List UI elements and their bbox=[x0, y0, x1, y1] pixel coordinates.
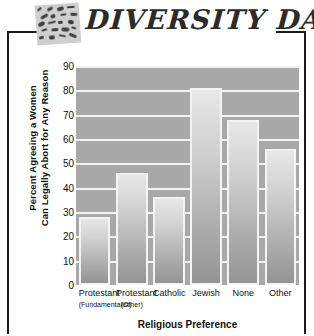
x-axis-tick-sublabel: (Fundamentalist) bbox=[79, 299, 111, 310]
y-axis-title-line2: Can Legally Abort for Any Reason bbox=[39, 70, 50, 227]
y-axis-title: Percent Agreeing a Women Can Legally Abo… bbox=[27, 32, 51, 264]
y-axis-tick: 90 bbox=[63, 61, 74, 72]
x-axis-tick: Other bbox=[265, 288, 297, 318]
y-axis-tick-labels: 9080706050403020100 bbox=[52, 52, 74, 285]
x-axis-tick-label: Protestant bbox=[116, 288, 148, 299]
y-axis-tick: 0 bbox=[68, 280, 74, 291]
bar-slot bbox=[190, 66, 222, 285]
y-axis-tick: 60 bbox=[63, 134, 74, 145]
x-axis-tick: Protestant(Fundamentalist) bbox=[79, 288, 111, 318]
bar-slot bbox=[227, 66, 259, 285]
bar-slot bbox=[116, 66, 148, 285]
bar[interactable] bbox=[227, 120, 259, 285]
bar-slot bbox=[79, 66, 111, 285]
bar-slot bbox=[153, 66, 185, 285]
x-axis-tick: Jewish bbox=[190, 288, 222, 318]
x-axis-tick: Catholic bbox=[153, 288, 185, 318]
x-axis-tick: Protestant(Other) bbox=[116, 288, 148, 318]
x-axis-tick-labels: Protestant(Fundamentalist)Protestant(Oth… bbox=[76, 288, 299, 318]
page-title: Diversity Data bbox=[85, 4, 314, 35]
x-axis-tick: None bbox=[227, 288, 259, 318]
bar-slot bbox=[265, 66, 297, 285]
bar[interactable] bbox=[153, 197, 185, 285]
bar[interactable] bbox=[190, 88, 222, 285]
x-axis-tick-label: None bbox=[227, 288, 259, 299]
x-axis-tick-label: Protestant bbox=[79, 288, 111, 299]
bar[interactable] bbox=[79, 217, 111, 285]
bar[interactable] bbox=[265, 149, 297, 285]
x-axis-tick-label: Catholic bbox=[153, 288, 185, 299]
x-axis-title: Religious Preference bbox=[76, 319, 299, 330]
y-axis-tick: 10 bbox=[63, 255, 74, 266]
bar-series bbox=[76, 66, 299, 285]
y-axis-tick: 20 bbox=[63, 231, 74, 242]
x-axis-tick-label: Jewish bbox=[190, 288, 222, 299]
y-axis-title-line1: Percent Agreeing a Women bbox=[27, 85, 38, 210]
x-axis-tick-sublabel: (Other) bbox=[116, 299, 148, 310]
diversity-data-chart-page: Diversity Data Percent Agreeing a Women … bbox=[0, 0, 314, 336]
plot-area bbox=[76, 66, 299, 285]
y-axis-tick: 40 bbox=[63, 182, 74, 193]
y-axis-tick: 80 bbox=[63, 85, 74, 96]
bar-chart: Percent Agreeing a Women Can Legally Abo… bbox=[0, 52, 314, 336]
x-axis-tick-label: Other bbox=[265, 288, 297, 299]
y-axis-tick: 70 bbox=[63, 109, 74, 120]
y-axis-tick: 30 bbox=[63, 207, 74, 218]
y-axis-tick: 50 bbox=[63, 158, 74, 169]
bar[interactable] bbox=[116, 173, 148, 285]
